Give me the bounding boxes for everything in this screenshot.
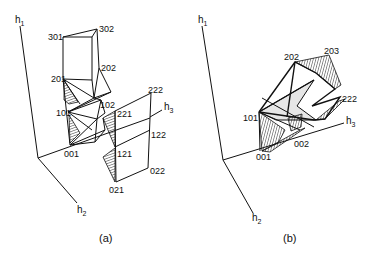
axis-h2-b (223, 160, 253, 213)
polyhedra-column-a (63, 29, 111, 145)
node-label-001: 001 (64, 149, 79, 159)
node-label-222: 222 (148, 85, 163, 95)
figure-canvas: h1 h2 h3 (0, 0, 366, 268)
node-labels-a: 301 302 201 202 101 102 001 221 222 122 … (48, 24, 166, 195)
node-label-222: 222 (342, 94, 357, 104)
node-label-121: 121 (117, 149, 132, 159)
node-label-202: 202 (284, 52, 299, 62)
node-label-101: 101 (243, 113, 258, 123)
axis-label-h3-a: h3 (164, 101, 174, 114)
axis-label-h1-a: h1 (15, 14, 25, 27)
axis-label-h2-b: h2 (252, 212, 262, 225)
panel-a: h1 h2 h3 (15, 14, 174, 244)
node-label-201: 201 (51, 74, 66, 84)
axes-a (20, 26, 162, 203)
axis-h2-a (38, 158, 77, 203)
node-label-022: 022 (150, 166, 165, 176)
axis-h1-b (202, 26, 223, 160)
node-label-021: 021 (109, 185, 124, 195)
node-label-001: 001 (256, 152, 271, 162)
node-label-101: 101 (56, 108, 71, 118)
axis-label-h1-b: h1 (198, 14, 208, 27)
node-label-203: 203 (324, 46, 339, 56)
node-label-221: 221 (117, 109, 132, 119)
node-label-002: 002 (294, 139, 309, 149)
node-label-202: 202 (101, 63, 116, 73)
axis-label-h2-a: h2 (77, 204, 87, 217)
caption-a: (a) (99, 232, 112, 244)
node-label-122: 122 (151, 130, 166, 140)
axis-label-h3-b: h3 (346, 115, 356, 128)
panel-b: h1 h2 h3 202 203 222 101 0 (198, 14, 357, 244)
axis-h1-a (20, 26, 38, 158)
node-label-301: 301 (48, 32, 63, 42)
axis-h3-tick-a (150, 110, 162, 117)
node-label-302: 302 (99, 24, 114, 34)
caption-b: (b) (283, 232, 296, 244)
node-label-102: 102 (100, 100, 115, 110)
polyhedra-b (259, 55, 345, 152)
